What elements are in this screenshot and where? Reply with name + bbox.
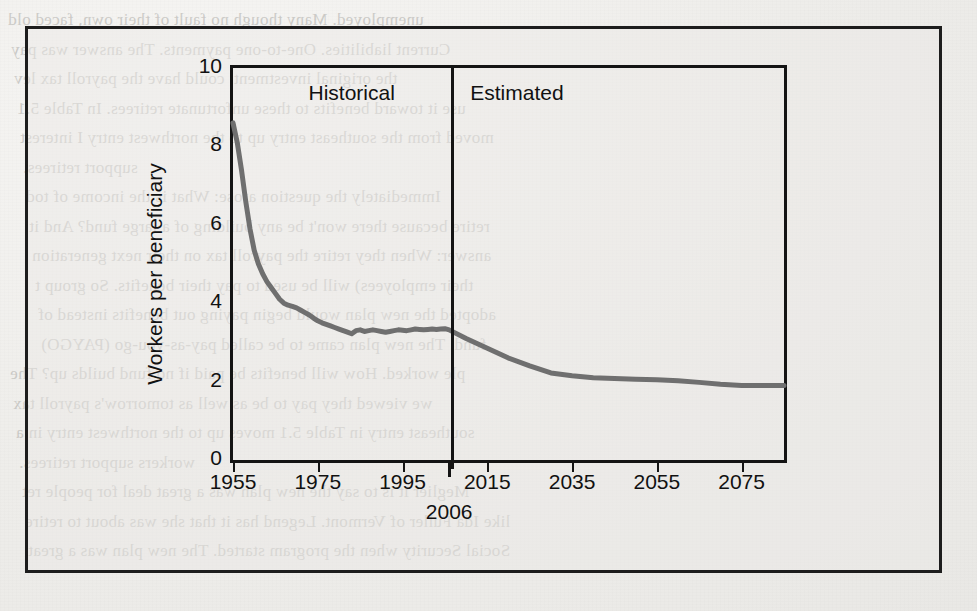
x-axis-tick-label: 1975	[278, 470, 358, 494]
y-axis-tick-label: 10	[182, 54, 222, 78]
plot-area	[230, 65, 787, 463]
historical-region-label: Historical	[308, 81, 394, 105]
scanned-figure-page: unemployed. Many though no fault of thei…	[0, 0, 977, 611]
historical-estimated-divider	[451, 65, 454, 469]
plot-inner	[233, 68, 784, 460]
x-axis-tick-label: 2075	[702, 470, 782, 494]
x-axis-tick-label: 1955	[193, 470, 273, 494]
divider-year-note: 2006	[389, 500, 509, 524]
y-axis-tick-label: 6	[182, 211, 222, 235]
workers-per-beneficiary-chart: Workers per beneficiary 0246810 Historic…	[0, 0, 977, 611]
series-line-chart	[233, 68, 784, 460]
x-axis-tick-label: 1995	[363, 470, 443, 494]
workers-per-beneficiary-line	[233, 123, 784, 386]
y-axis-label: Workers per beneficiary	[143, 109, 167, 439]
y-axis-tick-label: 2	[182, 368, 222, 392]
x-axis-tick-label: 2035	[532, 470, 612, 494]
x-axis-tick-label: 2055	[617, 470, 697, 494]
y-axis-tick-label: 4	[182, 289, 222, 313]
x-axis-tick-label: 2015	[447, 470, 527, 494]
y-axis-tick-label: 8	[182, 132, 222, 156]
estimated-region-label: Estimated	[470, 81, 563, 105]
y-axis-tick-label: 0	[182, 446, 222, 470]
y-axis-tick-labels: 0246810	[178, 0, 222, 611]
